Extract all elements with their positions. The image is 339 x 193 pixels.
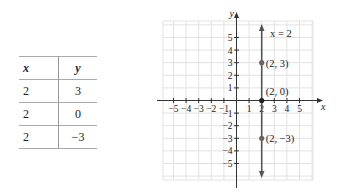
- x-axis-label: x: [320, 101, 326, 112]
- y-tick-label: −5: [222, 159, 232, 169]
- y-axis-label: y: [229, 8, 235, 19]
- points: (2, 3)(2, 0)(2, −3): [259, 58, 295, 146]
- x-tick-label: −5: [168, 104, 178, 114]
- y-tick-label: 3: [228, 58, 233, 68]
- x-tick-label: −2: [206, 104, 216, 114]
- point-label: (2, 3): [266, 58, 289, 70]
- axes: xy: [157, 8, 326, 188]
- y-tick-label: −1: [222, 109, 232, 119]
- y-tick-label: 5: [228, 33, 233, 43]
- point-marker: [259, 98, 264, 103]
- point-marker: [259, 60, 264, 65]
- x-tick-label: 3: [272, 104, 277, 114]
- x-tick-label: 4: [285, 104, 290, 114]
- point-marker: [259, 136, 264, 141]
- y-tick-label: −2: [222, 121, 232, 131]
- y-tick-label: 1: [228, 83, 233, 93]
- y-tick-label: −4: [222, 146, 232, 156]
- coordinate-graph: xy −5−4−3−2−11234554321−1−2−3−4−5 x = 2 …: [0, 0, 339, 193]
- point-label: (2, 0): [266, 86, 289, 98]
- x-tick-label: 5: [297, 104, 302, 114]
- point-label: (2, −3): [266, 133, 295, 145]
- x-tick-label: 1: [247, 104, 252, 114]
- y-tick-label: 2: [228, 71, 233, 81]
- line-label: x = 2: [270, 28, 292, 39]
- x-tick-label: −3: [194, 104, 204, 114]
- x-tick-label: −4: [181, 104, 191, 114]
- y-tick-label: −3: [222, 134, 232, 144]
- y-tick-label: 4: [228, 46, 233, 56]
